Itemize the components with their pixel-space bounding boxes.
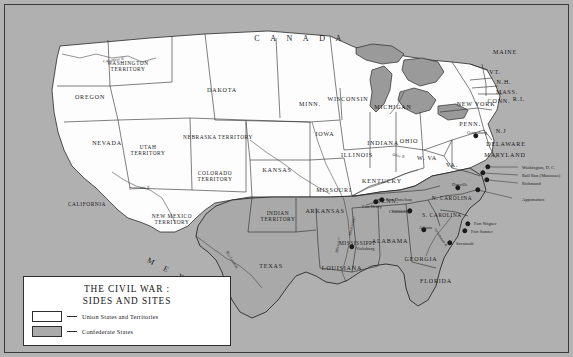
legend-title-line1: THE CIVIL WAR : <box>24 283 230 295</box>
legend-row-union: Union States and Territories <box>32 311 230 322</box>
legend-dash-union <box>67 316 77 317</box>
legend-title-line2: SIDES AND SITES <box>24 295 230 307</box>
civil-war-map-figure: C A N A D AM E X I C OWASHINGTONTERRITOR… <box>0 0 573 357</box>
legend-title-block: THE CIVIL WAR : SIDES AND SITES <box>24 277 230 307</box>
union-legend-label: Union States and Territories <box>82 313 158 320</box>
legend-dash-confederate <box>67 331 77 332</box>
map-legend: THE CIVIL WAR : SIDES AND SITES Union St… <box>23 276 231 346</box>
legend-row-confederate: Confederate States <box>32 326 230 337</box>
confederate-color-swatch <box>32 326 62 337</box>
confederate-legend-label: Confederate States <box>82 328 133 335</box>
union-color-swatch <box>32 311 62 322</box>
